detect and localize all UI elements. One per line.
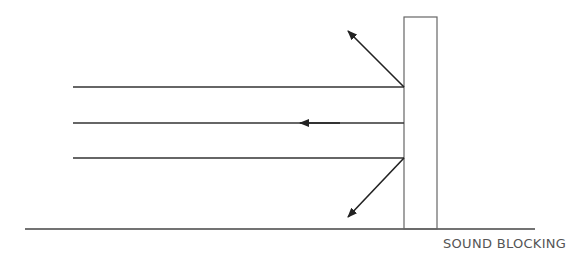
diagram-caption: SOUND BLOCKING [443, 236, 566, 251]
sound-wall [404, 17, 437, 229]
reflected-arrow-down-icon [348, 158, 404, 217]
reflected-arrow-up-icon [348, 31, 404, 87]
